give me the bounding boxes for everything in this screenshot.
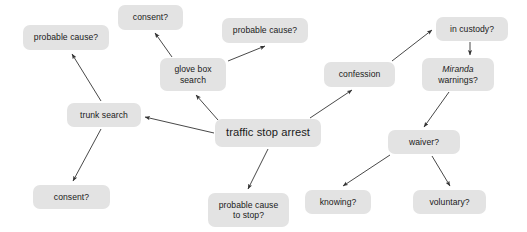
- node-label: traffic stop arrest: [226, 126, 310, 139]
- node-label: trunk search: [80, 110, 128, 120]
- edge-traffic-stop-arrest-to-trunk-search: [145, 117, 214, 133]
- edge-waiver-to-knowing: [343, 155, 390, 186]
- edge-miranda-warnings-to-waiver: [424, 92, 449, 127]
- node-trunk-search[interactable]: trunk search: [67, 103, 141, 127]
- edge-confession-to-in-custody: [392, 30, 432, 61]
- node-traffic-stop-arrest[interactable]: traffic stop arrest: [215, 119, 321, 147]
- node-probable-cause-to-stop[interactable]: probable cause to stop?: [208, 193, 289, 227]
- node-probable-cause-glove-box[interactable]: probable cause?: [222, 18, 308, 43]
- edge-traffic-stop-arrest-to-probable-cause-to-stop: [248, 149, 268, 189]
- edge-trunk-search-to-probable-cause-trunk: [72, 54, 101, 101]
- edge-traffic-stop-arrest-to-glove-box-search: [196, 95, 218, 120]
- node-knowing[interactable]: knowing?: [305, 190, 371, 214]
- edge-trunk-search-to-consent-trunk: [73, 129, 101, 181]
- node-label: probable cause?: [34, 32, 98, 42]
- node-label: probable cause to stop?: [219, 200, 278, 220]
- node-confession[interactable]: confession: [324, 62, 395, 87]
- node-label: knowing?: [320, 197, 357, 207]
- node-label: probable cause?: [233, 25, 297, 35]
- node-label: voluntary?: [429, 197, 469, 207]
- node-miranda-warnings[interactable]: Miranda warnings?: [422, 58, 494, 91]
- node-voluntary[interactable]: voluntary?: [413, 190, 486, 214]
- edge-waiver-to-voluntary: [432, 156, 450, 186]
- diagram-canvas: probable cause?consent?probable cause?gl…: [0, 0, 527, 232]
- node-label: consent?: [54, 192, 89, 202]
- node-label: consent?: [133, 12, 168, 22]
- node-consent-trunk[interactable]: consent?: [33, 185, 110, 209]
- edge-traffic-stop-arrest-to-confession: [310, 90, 352, 118]
- edge-glove-box-search-to-consent-glove-box: [155, 33, 172, 57]
- node-label: glove box search: [174, 64, 211, 84]
- edge-glove-box-search-to-probable-cause-glove-box: [228, 46, 265, 61]
- node-waiver[interactable]: waiver?: [388, 130, 460, 154]
- node-label: confession: [339, 69, 381, 79]
- node-in-custody[interactable]: in custody?: [436, 17, 508, 41]
- node-probable-cause-trunk[interactable]: probable cause?: [23, 25, 109, 50]
- node-glove-box-search[interactable]: glove box search: [160, 58, 226, 91]
- node-label: in custody?: [450, 24, 494, 34]
- node-consent-glove-box[interactable]: consent?: [118, 5, 183, 30]
- node-label: waiver?: [409, 137, 439, 147]
- node-label: Miranda warnings?: [438, 64, 478, 84]
